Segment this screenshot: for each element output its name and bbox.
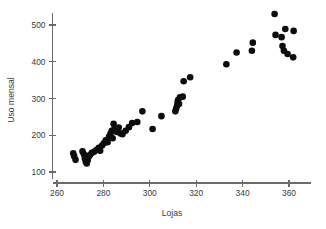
y-tick-label: 200 <box>32 130 46 140</box>
x-tick-label: 280 <box>96 188 110 198</box>
data-point <box>115 124 122 131</box>
data-point <box>282 26 289 33</box>
x-tick-label: 360 <box>282 188 296 198</box>
data-point <box>72 157 79 164</box>
data-point <box>176 101 183 108</box>
data-point <box>179 93 186 100</box>
x-axis-title: Lojas <box>162 208 183 218</box>
data-point <box>272 32 279 39</box>
y-axis: 100200300400500 <box>32 13 56 179</box>
data-point <box>139 108 146 115</box>
y-tick-label: 100 <box>32 167 46 177</box>
data-point <box>158 113 165 120</box>
data-point <box>250 39 257 46</box>
data-point <box>271 11 278 18</box>
data-point <box>278 34 285 41</box>
x-tick-label: 340 <box>236 188 250 198</box>
data-point <box>249 47 256 54</box>
data-point <box>187 74 194 81</box>
x-tick-label: 320 <box>189 188 203 198</box>
data-point <box>149 126 156 133</box>
data-point <box>109 135 116 142</box>
y-tick-label: 300 <box>32 94 46 104</box>
data-point <box>284 51 291 58</box>
data-point <box>233 49 240 56</box>
scatter-plot-figure: 100200300400500 260280300320340360 Lojas… <box>0 0 326 229</box>
chart-canvas: 100200300400500 260280300320340360 Lojas… <box>0 0 326 229</box>
y-tick-label: 500 <box>32 20 46 30</box>
x-tick-label: 260 <box>50 188 64 198</box>
data-point <box>290 28 297 35</box>
x-axis: 260280300320340360 <box>50 180 311 198</box>
data-point <box>180 78 187 85</box>
data-point <box>223 61 230 68</box>
data-point <box>134 119 141 126</box>
data-points <box>70 11 297 167</box>
y-tick-label: 400 <box>32 57 46 67</box>
y-axis-title: Uso mensal <box>6 77 16 122</box>
x-tick-label: 300 <box>143 188 157 198</box>
data-point <box>290 54 297 61</box>
